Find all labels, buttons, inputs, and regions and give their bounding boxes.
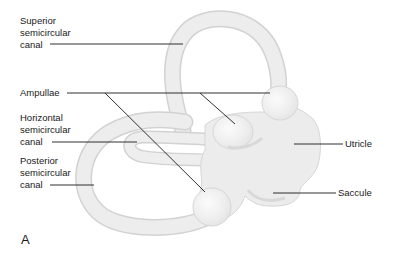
label-line: Superior xyxy=(20,15,71,27)
label-line: canal xyxy=(20,39,71,51)
label-line: semicircular xyxy=(20,27,71,39)
label-horizontal-semicircular-canal: Horizontal semicircular canal xyxy=(20,112,71,148)
label-utricle: Utricle xyxy=(345,138,372,150)
superior-ampulla-shape xyxy=(262,86,298,120)
panel-letter: A xyxy=(21,232,30,247)
label-line: semicircular xyxy=(20,167,71,179)
label-saccule: Saccule xyxy=(338,187,372,199)
label-ampullae: Ampullae xyxy=(20,87,60,99)
label-line: semicircular xyxy=(20,124,71,136)
posterior-ampulla-shape xyxy=(193,188,231,226)
label-line: canal xyxy=(20,179,71,191)
horizontal-ampulla-shape xyxy=(213,115,253,149)
label-line: Horizontal xyxy=(20,112,71,124)
label-superior-semicircular-canal: Superior semicircular canal xyxy=(20,15,71,51)
label-posterior-semicircular-canal: Posterior semicircular canal xyxy=(20,155,71,191)
label-line: Posterior xyxy=(20,155,71,167)
label-line: canal xyxy=(20,136,71,148)
inner-ear-diagram: Superior semicircular canal Ampullae Hor… xyxy=(0,0,393,259)
